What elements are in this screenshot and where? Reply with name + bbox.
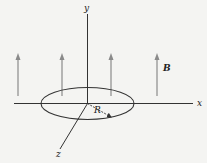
radius-label: R bbox=[93, 105, 101, 115]
arrowhead-4 bbox=[155, 53, 160, 60]
magnetic-field-loop-diagram: y x z B R bbox=[0, 0, 207, 163]
x-axis-label: x bbox=[197, 98, 202, 108]
arrowhead-2 bbox=[60, 53, 65, 60]
z-axis-label: z bbox=[55, 149, 61, 159]
y-axis-label: y bbox=[83, 3, 90, 13]
arrowhead-1 bbox=[16, 53, 21, 60]
field-label: B bbox=[162, 63, 171, 73]
arrowhead-3 bbox=[109, 53, 114, 60]
z-axis bbox=[60, 104, 88, 150]
